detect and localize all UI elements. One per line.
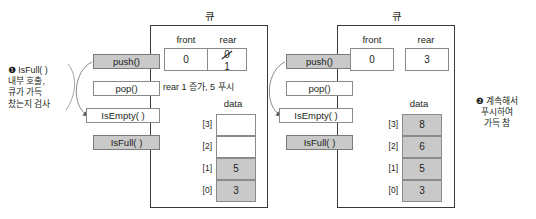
annotation-right-marker: ❷: [476, 96, 484, 106]
annotation-right-text: 계속해서 푸시하여 가득 참: [481, 96, 518, 128]
front-value-box-right: 0: [350, 48, 394, 71]
method-button-pop-right[interactable]: pop(): [286, 81, 353, 96]
cell-index-right-2: [2]: [382, 136, 398, 156]
panel-title-left: 큐: [150, 8, 270, 23]
method-button-push-left[interactable]: push(): [93, 54, 160, 69]
cell-index-left-2: [2]: [196, 136, 212, 156]
diagram-canvas: 큐 push() pop() IsEmpty( ) IsFull( ) fron…: [0, 0, 536, 219]
rear-value-box-left: 0 1: [207, 48, 247, 71]
cell-index-right-3: [3]: [382, 114, 398, 134]
front-value-box-left: 0: [164, 48, 208, 71]
front-label-right: front: [349, 34, 395, 45]
rear-value-right: 3: [406, 49, 448, 70]
method-button-pop-left[interactable]: pop(): [93, 81, 160, 96]
rear-value-box-right: 3: [405, 48, 449, 71]
front-value-right: 0: [351, 49, 393, 70]
rear-increment-note-left: rear 1 증가, 5 푸시: [163, 80, 234, 93]
data-cell-left-3: [216, 114, 256, 136]
annotation-left: ❶ IsFull( ) 내부 호출, 큐가 가득 찼는지 검사: [8, 65, 64, 110]
data-label-left: data: [210, 98, 256, 109]
data-cell-right-2: 6: [402, 136, 442, 158]
method-button-isempty-right[interactable]: IsEmpty( ): [279, 108, 353, 123]
rear-label-right: rear: [404, 34, 448, 45]
method-button-isempty-left[interactable]: IsEmpty( ): [86, 108, 160, 123]
cell-index-left-3: [3]: [196, 114, 212, 134]
annotation-right: ❷ 계속해서 푸시하여 가득 참: [463, 96, 531, 130]
panel-title-right: 큐: [337, 8, 457, 23]
method-button-isfull-left[interactable]: IsFull( ): [93, 135, 160, 150]
cell-index-right-1: [1]: [382, 158, 398, 178]
data-cell-right-1: 5: [402, 158, 442, 180]
connector-lines: [0, 0, 536, 219]
annotation-left-marker: ❶: [8, 65, 16, 75]
front-value-left: 0: [165, 49, 207, 70]
data-cell-right-0: 3: [402, 180, 442, 202]
data-cell-left-1: 5: [216, 158, 256, 180]
data-label-right: data: [396, 98, 442, 109]
rear-old-value-left: 0: [208, 49, 246, 60]
front-label-left: front: [163, 34, 209, 45]
data-cell-right-3: 8: [402, 114, 442, 136]
rear-value-left: 1: [208, 60, 246, 72]
data-cell-left-2: [216, 136, 256, 158]
rear-label-left: rear: [206, 34, 250, 45]
cell-index-right-0: [0]: [382, 180, 398, 200]
method-button-push-right[interactable]: push(): [286, 54, 353, 69]
cell-index-left-0: [0]: [196, 180, 212, 200]
method-button-isfull-right[interactable]: IsFull( ): [286, 135, 353, 150]
cell-index-left-1: [1]: [196, 158, 212, 178]
data-cell-left-0: 3: [216, 180, 256, 202]
